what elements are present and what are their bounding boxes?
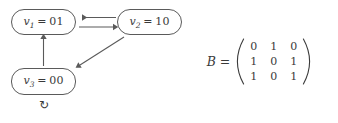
matrix-cell-r1c2: 1 bbox=[266, 39, 281, 54]
figure-root: v1=01 v2=10 v3=00 ↻ B = 0 1 0 bbox=[0, 0, 338, 123]
node-v3[interactable]: v3=00 bbox=[11, 68, 76, 95]
node-v1-value: 01 bbox=[49, 15, 63, 28]
matrix-cell-r1c1: 0 bbox=[246, 39, 261, 54]
right-paren-icon bbox=[302, 38, 311, 85]
matrix-cell-r3c3: 1 bbox=[286, 69, 301, 84]
node-v1-label: v1=01 bbox=[23, 16, 63, 29]
matrix-name: B bbox=[207, 54, 216, 69]
node-v2[interactable]: v2=10 bbox=[117, 9, 182, 35]
self-loop-icon: ↻ bbox=[37, 98, 51, 112]
matrix-block: B = 0 1 0 1 0 1 1 0 1 bbox=[180, 0, 338, 123]
node-v2-subscript: 2 bbox=[136, 20, 141, 29]
state-transition-diagram: v1=01 v2=10 v3=00 ↻ bbox=[0, 0, 180, 123]
matrix-cell-r2c2: 0 bbox=[266, 54, 281, 69]
node-v2-label: v2=10 bbox=[129, 16, 169, 29]
matrix-cell-r3c1: 1 bbox=[246, 69, 261, 84]
node-v2-equals: = bbox=[143, 15, 152, 28]
node-v1-subscript: 1 bbox=[30, 20, 35, 29]
matrix-cell-r3c2: 0 bbox=[266, 69, 281, 84]
node-v1[interactable]: v1=01 bbox=[11, 9, 76, 35]
node-v3-label: v3=00 bbox=[23, 75, 63, 88]
node-v3-value: 00 bbox=[49, 74, 63, 87]
matrix-cell-r2c1: 1 bbox=[246, 54, 261, 69]
edge-v2-to-v3 bbox=[80, 37, 124, 65]
node-v3-subscript: 3 bbox=[30, 80, 35, 89]
matrix-cell-r2c3: 1 bbox=[286, 54, 301, 69]
node-v3-equals: = bbox=[37, 74, 46, 87]
node-v1-equals: = bbox=[37, 15, 46, 28]
node-v2-value: 10 bbox=[155, 15, 169, 28]
matrix-grid: 0 1 0 1 0 1 1 0 1 bbox=[246, 39, 301, 84]
matrix-cell-r1c3: 0 bbox=[286, 39, 301, 54]
left-paren-icon bbox=[236, 38, 245, 85]
matrix-equals: = bbox=[220, 54, 230, 69]
